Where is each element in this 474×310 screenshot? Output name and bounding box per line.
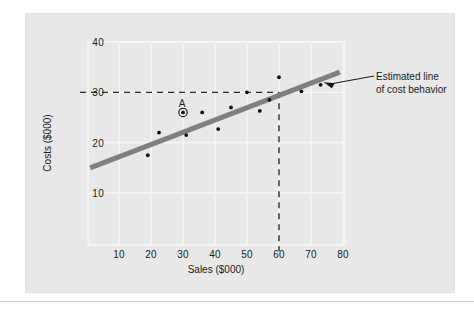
x-tick-label-50: 50 [241, 249, 253, 260]
x-tick-label-40: 40 [209, 249, 221, 260]
y-axis-title: Costs ($000) [42, 114, 53, 171]
point-a-label: A [179, 98, 186, 109]
data-point [146, 153, 150, 157]
estimated-line-annotation: Estimated line of cost behavior [376, 70, 447, 96]
reference-lines [80, 92, 279, 251]
x-tick-label-20: 20 [145, 249, 157, 260]
annotation-line-2: of cost behavior [376, 83, 447, 96]
data-point [229, 106, 233, 110]
y-tick-label-40: 40 [82, 37, 104, 48]
y-tick-label-30: 30 [82, 87, 104, 98]
callout-leader [329, 76, 374, 84]
x-tick-label-10: 10 [113, 249, 125, 260]
page-bottom-rule [0, 301, 474, 302]
callout-arrow-head [324, 82, 335, 88]
x-tick-label-30: 30 [177, 249, 189, 260]
data-point [157, 131, 161, 135]
data-point [200, 111, 204, 115]
data-point [216, 127, 220, 131]
data-point [268, 98, 272, 102]
x-tick-label-80: 80 [337, 249, 349, 260]
data-point [245, 90, 249, 94]
annotation-line-1: Estimated line [376, 71, 439, 82]
x-axis-title: Sales ($000) [188, 264, 245, 275]
y-tick-label-20: 20 [82, 138, 104, 149]
data-point [300, 89, 304, 93]
data-point [181, 111, 185, 115]
data-point [277, 75, 281, 79]
x-tick-label-70: 70 [305, 249, 317, 260]
y-tick-label-10: 10 [82, 188, 104, 199]
grid-lines [88, 42, 345, 245]
x-tick-label-60: 60 [273, 249, 285, 260]
data-point [319, 83, 323, 87]
data-point [184, 133, 188, 137]
figure-root: 40 30 20 10 10 20 30 40 50 60 70 80 Sale… [0, 0, 474, 310]
data-point [258, 109, 262, 113]
